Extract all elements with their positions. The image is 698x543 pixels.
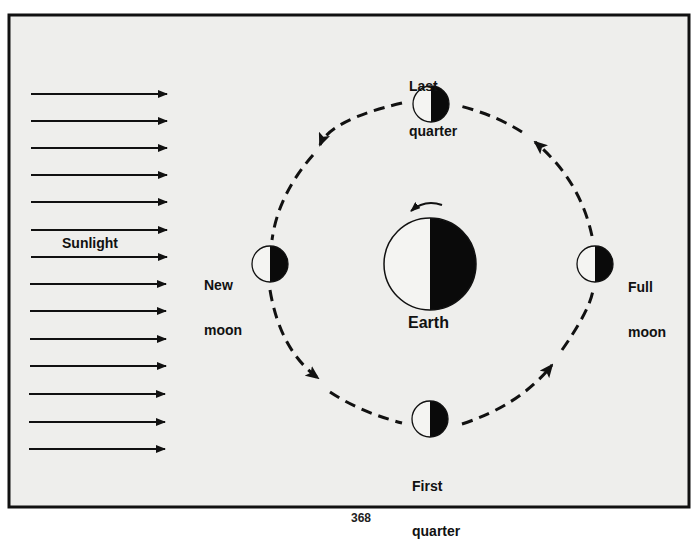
moon-full-moon-icon: [577, 246, 613, 282]
last-quarter-label: Last quarter: [409, 49, 457, 169]
full-moon-label-line1: Full: [628, 280, 666, 295]
new-moon-label-line2: moon: [204, 323, 242, 338]
last-quarter-label-line2: quarter: [409, 124, 457, 139]
moon-first-quarter-icon: [412, 401, 448, 437]
first-quarter-label-line1: First: [412, 479, 460, 494]
earth-label: Earth: [408, 315, 449, 330]
first-quarter-label-line2: quarter: [412, 524, 460, 539]
new-moon-label: New moon: [204, 248, 242, 368]
full-moon-label: Full moon: [628, 250, 666, 370]
moon-new-moon-icon: [252, 246, 288, 282]
earth-icon: [384, 218, 476, 310]
first-quarter-label: First quarter: [412, 449, 460, 543]
page-number: 368: [351, 511, 371, 525]
new-moon-label-line1: New: [204, 278, 242, 293]
sunlight-label: Sunlight: [62, 236, 118, 251]
full-moon-label-line2: moon: [628, 325, 666, 340]
last-quarter-label-line1: Last: [409, 79, 457, 94]
